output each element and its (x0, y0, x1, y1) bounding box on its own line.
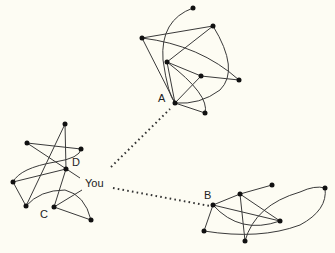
node-c (52, 205, 57, 210)
label-you: You (85, 177, 104, 189)
label-d: D (72, 156, 80, 168)
weak-tie-you-b (113, 188, 210, 206)
cluster-a-nodes (140, 6, 242, 116)
node-a (173, 101, 178, 106)
weak-tie-you-a (111, 109, 170, 167)
node-b (211, 203, 216, 208)
cluster-b-edges (204, 185, 325, 241)
cluster-a-edges (142, 8, 239, 113)
label-a: A (158, 92, 166, 104)
label-c: C (40, 208, 48, 220)
label-b: B (204, 189, 211, 201)
node-d (64, 167, 69, 172)
cluster-b-nodes (202, 183, 328, 244)
network-diagram: A B C D You (0, 0, 335, 253)
